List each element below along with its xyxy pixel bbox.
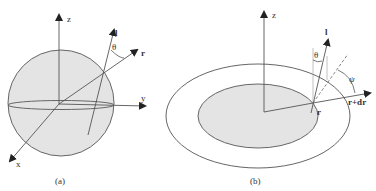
l-label: l [115, 28, 118, 38]
panel-a: z y x l r θ (a) [8, 14, 146, 186]
diagram-canvas: z y x l r θ (a) z l θ ψ r r+dr (b) [0, 0, 376, 191]
caption-b: (b) [250, 176, 261, 186]
caption-a: (a) [55, 176, 65, 186]
panel-b: z l θ ψ r r+dr (b) [166, 10, 370, 186]
r-label: r [141, 48, 145, 58]
l-label-b: l [325, 27, 328, 37]
psi-label: ψ [349, 74, 355, 84]
x-label: x [16, 159, 21, 169]
r-label-b: r [317, 107, 321, 117]
z-label-b: z [272, 10, 276, 20]
theta-label-b: θ [314, 50, 318, 60]
inner-ellipse [198, 84, 318, 148]
theta-arc-b [313, 60, 322, 62]
z-label: z [67, 14, 71, 24]
theta-label: θ [112, 42, 116, 52]
r-dr-label: r+dr [348, 97, 366, 107]
y-label: y [141, 93, 146, 103]
